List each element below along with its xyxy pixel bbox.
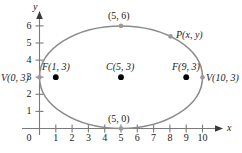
covertex-bottom-label: (5, 0) [108, 114, 130, 124]
focus-right-marker [183, 74, 189, 80]
x-tick-label-9: 9 [180, 133, 192, 143]
x-tick-label-4: 4 [99, 133, 111, 143]
y-tick-label-5: 5 [23, 38, 35, 48]
x-tick-label-7: 7 [148, 133, 160, 143]
center-label: C(5, 3) [106, 62, 134, 72]
vertex-right-label: V(10, 3) [206, 73, 239, 83]
center-marker [118, 74, 124, 80]
y-tick-label-1: 1 [23, 106, 35, 116]
ellipse-figure: y x 0 1 2 3 4 5 6 7 8 9 10 1 2 3 4 5 6 V… [0, 0, 242, 153]
x-axis-arrow-icon [215, 125, 223, 132]
y-axis-arrow-icon [36, 11, 43, 19]
origin-tick-label: 0 [23, 133, 35, 143]
focus-left-label: F(1, 3) [42, 62, 70, 72]
focus-right-label: F(9, 3) [172, 62, 200, 72]
y-tick-label-6: 6 [23, 21, 35, 31]
y-tick-label-4: 4 [23, 55, 35, 65]
x-tick-label-10: 10 [195, 133, 211, 143]
x-axis-label: x [227, 123, 231, 133]
y-tick-label-2: 2 [23, 89, 35, 99]
vertex-left-label: V(0, 3) [1, 73, 29, 83]
x-tick-label-1: 1 [50, 133, 62, 143]
covertex-top-label: (5, 6) [108, 11, 130, 21]
vertex-right-marker [200, 75, 205, 80]
point-p-marker [168, 34, 173, 39]
x-tick-label-6: 6 [131, 133, 143, 143]
y-axis-label: y [33, 2, 37, 12]
focus-left-marker [53, 74, 59, 80]
x-tick-label-3: 3 [82, 133, 94, 143]
x-tick-label-5: 5 [115, 133, 127, 143]
point-p-label: P(x, y) [176, 30, 203, 40]
x-tick-label-2: 2 [66, 133, 78, 143]
x-tick-label-8: 8 [164, 133, 176, 143]
vertex-left-marker [37, 75, 42, 80]
covertex-bottom-marker [119, 126, 124, 131]
covertex-top-marker [119, 24, 124, 29]
